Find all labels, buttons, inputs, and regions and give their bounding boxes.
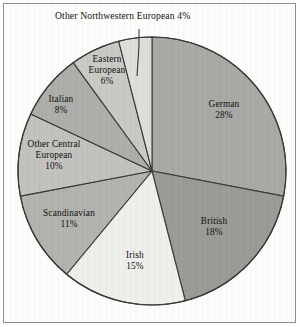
slice-label-irish-name: Irish: [111, 250, 159, 261]
slice-label-eastern-european-name-line2: European: [76, 65, 138, 76]
slice-label-german-value: 28%: [196, 110, 252, 121]
pie-chart-figure: Other Northwestern European 4% German 28…: [0, 0, 300, 327]
slice-label-scandinavian-value: 11%: [30, 219, 108, 230]
slice-label-other-central-european-value: 10%: [12, 161, 96, 172]
slice-label-british-value: 18%: [186, 227, 242, 238]
slice-label-eastern-european-name-line1: Eastern: [76, 54, 138, 65]
slice-label-irish-value: 15%: [111, 261, 159, 272]
slice-label-italian-name: Italian: [36, 94, 86, 105]
callout-label-other-northwestern-european: Other Northwestern European 4%: [55, 10, 190, 21]
slice-label-scandinavian-name: Scandinavian: [30, 208, 108, 219]
slice-label-other-central-european: Other Central European 10%: [12, 139, 96, 173]
slice-label-german: German 28%: [196, 99, 252, 121]
slice-label-other-central-european-name-line2: European: [12, 150, 96, 161]
slice-label-german-name: German: [196, 99, 252, 110]
slice-label-scandinavian: Scandinavian 11%: [30, 208, 108, 230]
slice-label-italian: Italian 8%: [36, 94, 86, 116]
slice-label-british-name: British: [186, 216, 242, 227]
slice-label-other-central-european-name-line1: Other Central: [12, 139, 96, 150]
slice-label-irish: Irish 15%: [111, 250, 159, 272]
slice-label-eastern-european-value: 6%: [76, 76, 138, 87]
slice-label-italian-value: 8%: [36, 105, 86, 116]
slice-label-british: British 18%: [186, 216, 242, 238]
slice-label-eastern-european: Eastern European 6%: [76, 54, 138, 88]
